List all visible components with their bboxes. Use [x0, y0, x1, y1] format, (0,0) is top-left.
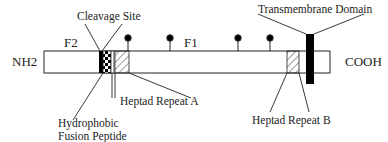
heptad-repeat-b-block [287, 51, 299, 73]
f1-label: F1 [184, 36, 198, 49]
c-terminus-label: COOH [345, 55, 382, 68]
heptad-repeat-a-label: Heptad Repeat A [120, 95, 199, 108]
heptad-repeat-a-block [115, 51, 129, 73]
fusion-peptide-label-line2: Fusion Peptide [58, 130, 127, 142]
f2-label: F2 [64, 36, 78, 49]
glycosylation-sites [125, 35, 273, 51]
fusion-peptide-block [103, 51, 111, 73]
fusion-peptide-divider [111, 51, 114, 73]
transmembrane-domain-label: Transmembrane Domain [258, 3, 372, 16]
n-terminus-label: NH2 [12, 55, 37, 68]
heptad-repeat-b-label: Heptad Repeat B [252, 114, 331, 127]
cleavage-site-bar [99, 51, 103, 73]
fusion-peptide-label-line1: Hydrophobic [58, 117, 119, 130]
transmembrane-domain-block [306, 34, 314, 84]
cleavage-site-label: Cleavage Site [77, 10, 141, 23]
